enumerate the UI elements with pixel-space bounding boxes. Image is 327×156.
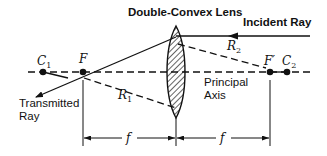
double-convex-lens-diagram: Double-Convex Lens Incident Ray C1 F F′ … <box>0 0 327 156</box>
c1-segment <box>43 72 68 78</box>
c2-label: C2 <box>282 54 296 70</box>
f-point <box>80 69 87 76</box>
transmitted-ray-line <box>36 37 176 97</box>
transmitted-ray-label-line1: Transmitted <box>19 97 79 109</box>
transmitted-ray-label-line2: Ray <box>19 110 40 122</box>
c1-label: C1 <box>37 54 51 70</box>
principal-axis-label-line1: Principal <box>204 76 248 88</box>
r2-label: R2 <box>226 39 241 55</box>
principal-axis-label-line2: Axis <box>204 89 226 101</box>
c2-point <box>284 69 291 76</box>
incident-ray-label: Incident Ray <box>243 16 312 28</box>
radius-r2-line <box>178 44 266 68</box>
focal-length-left-label: f <box>125 131 133 145</box>
focal-length-right-label: f <box>219 131 227 145</box>
f-prime-point <box>267 69 274 76</box>
lens-title: Double-Convex Lens <box>128 6 242 18</box>
f-prime-label: F′ <box>263 54 275 68</box>
r1-label: R1 <box>117 88 132 104</box>
f-label: F <box>78 52 88 66</box>
